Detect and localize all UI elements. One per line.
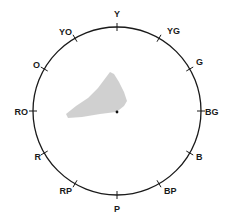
tick-rp	[73, 180, 77, 187]
tick-g	[186, 67, 193, 71]
tick-o	[41, 67, 48, 71]
tick-r	[41, 151, 48, 155]
center-dot	[116, 111, 119, 114]
hue-label-o: O	[33, 60, 40, 70]
tick-yo	[73, 35, 77, 42]
hue-label-bp: BP	[164, 186, 177, 196]
hue-label-ro: RO	[15, 107, 29, 117]
tick-yg	[157, 35, 161, 42]
hue-label-g: G	[196, 57, 203, 67]
tick-bp	[157, 180, 161, 187]
hue-label-r: R	[35, 152, 42, 162]
hue-label-p: P	[114, 204, 120, 214]
hue-circle-diagram: YYGGBGBBPPRPRROOYO	[0, 0, 231, 224]
hue-label-b: B	[196, 152, 203, 162]
hue-label-y: Y	[114, 9, 120, 19]
tick-b	[186, 151, 193, 155]
hue-label-bg: BG	[205, 107, 219, 117]
hue-label-yo: YO	[59, 27, 72, 37]
hue-label-yg: YG	[167, 26, 180, 36]
hue-label-rp: RP	[59, 186, 72, 196]
